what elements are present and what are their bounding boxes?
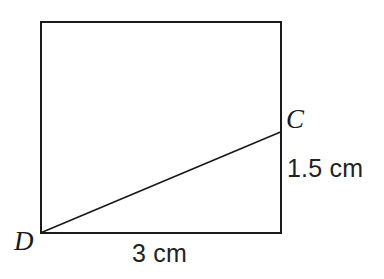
- dimension-label-width: 3 cm: [132, 241, 187, 266]
- figure-canvas: [0, 0, 384, 279]
- rectangle-outline: [41, 22, 281, 233]
- geometry-figure: D C 1.5 cm 3 cm: [0, 0, 384, 279]
- dimension-label-height: 1.5 cm: [287, 156, 363, 181]
- vertex-label-c: C: [286, 106, 304, 133]
- diagonal-segment-DC: [42, 132, 281, 233]
- vertex-label-d: D: [14, 228, 34, 255]
